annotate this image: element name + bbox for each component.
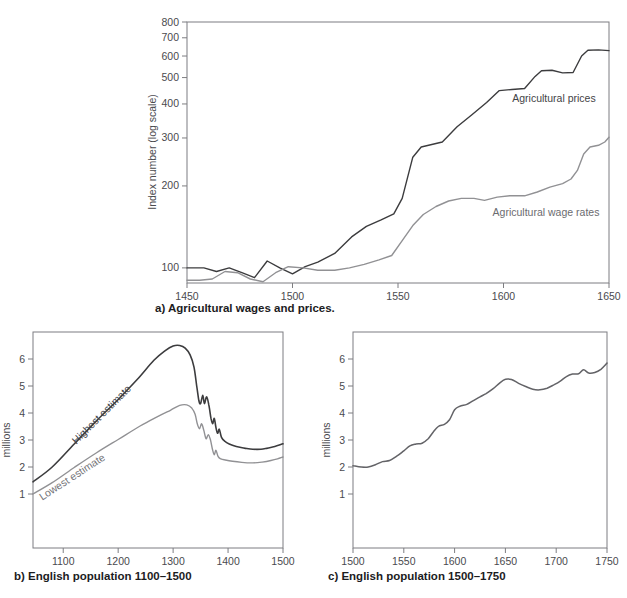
y-tick-label: 700 xyxy=(161,31,179,43)
x-tick-label: 1400 xyxy=(216,555,240,567)
x-tick-label: 1500 xyxy=(341,555,365,567)
annotation-lowest-estimate: Lowest estimate xyxy=(37,451,107,502)
annotation-agricultural-wage-rates: Agricultural wage rates xyxy=(493,206,600,218)
chart-english-population-1500-1750: 123456150015501600165017001750millions xyxy=(320,320,627,578)
y-tick-label: 6 xyxy=(19,353,25,365)
series-highest-estimate xyxy=(33,345,283,482)
x-tick-label: 1650 xyxy=(494,555,518,567)
annotation-agricultural-prices: Agricultural prices xyxy=(512,92,595,104)
y-tick-label: 800 xyxy=(161,16,179,28)
y-tick-label: 1 xyxy=(19,488,25,500)
x-tick-label: 1600 xyxy=(492,290,516,302)
plot-border xyxy=(353,332,607,548)
y-tick-label: 3 xyxy=(339,434,345,446)
chart-a-caption: a) Agricultural wages and prices. xyxy=(155,302,335,314)
x-tick-label: 1750 xyxy=(595,555,619,567)
y-tick-label: 2 xyxy=(19,461,25,473)
x-tick-label: 1500 xyxy=(281,290,305,302)
y-tick-label: 5 xyxy=(19,380,25,392)
y-tick-label: 2 xyxy=(339,461,345,473)
x-tick-label: 1450 xyxy=(175,290,199,302)
chart-b-caption: b) English population 1100–1500 xyxy=(14,570,192,582)
x-tick-label: 1550 xyxy=(386,290,410,302)
y-axis-label: Index number (log scale) xyxy=(146,94,158,210)
page: 1002003004005006007008001450150015501600… xyxy=(0,0,627,598)
y-tick-label: 300 xyxy=(161,131,179,143)
y-tick-label: 4 xyxy=(19,407,25,419)
chart-agricultural-wages-prices: 1002003004005006007008001450150015501600… xyxy=(0,0,627,320)
y-tick-label: 600 xyxy=(161,50,179,62)
y-tick-label: 400 xyxy=(161,97,179,109)
x-tick-label: 1650 xyxy=(597,290,621,302)
y-tick-label: 3 xyxy=(19,434,25,446)
x-tick-label: 1100 xyxy=(52,555,75,567)
plot-border xyxy=(187,22,609,283)
x-tick-label: 1700 xyxy=(545,555,569,567)
y-tick-label: 1 xyxy=(339,488,345,500)
series-english-population xyxy=(353,363,607,467)
series-agricultural-prices xyxy=(187,50,609,278)
y-axis-label: millions xyxy=(320,422,332,457)
y-tick-label: 100 xyxy=(161,261,179,273)
y-axis-label: millions xyxy=(0,422,12,457)
y-tick-label: 5 xyxy=(339,380,345,392)
x-tick-label: 1200 xyxy=(106,555,130,567)
x-tick-label: 1500 xyxy=(271,555,295,567)
chart-english-population-1100-1500: 12345611001200130014001500millionsHighes… xyxy=(0,320,320,578)
y-tick-label: 4 xyxy=(339,407,345,419)
x-tick-label: 1600 xyxy=(443,555,467,567)
chart-c-caption: c) English population 1500–1750 xyxy=(328,570,506,582)
x-tick-label: 1300 xyxy=(161,555,185,567)
y-tick-label: 500 xyxy=(161,71,179,83)
y-tick-label: 200 xyxy=(161,179,179,191)
y-tick-label: 6 xyxy=(339,353,345,365)
x-tick-label: 1550 xyxy=(392,555,416,567)
